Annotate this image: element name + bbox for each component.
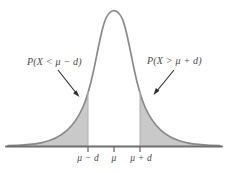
bell-curve-plot	[0, 0, 229, 173]
normal-curve-line	[8, 11, 220, 146]
x-tick-label-mu-minus-d: μ − d	[77, 153, 99, 163]
x-tick-label-mu-plus-d: μ + d	[130, 153, 152, 163]
left-tail-arrow	[58, 70, 80, 97]
left-tail-probability-label: P(X < μ − d)	[27, 56, 82, 67]
right-tail-probability-label: P(X > μ + d)	[147, 55, 202, 66]
right-tail-arrow	[154, 70, 175, 95]
x-tick-label-mu: μ	[112, 153, 117, 163]
normal-distribution-figure: P(X < μ − d) P(X > μ + d) μ − d μ μ + d	[0, 0, 229, 173]
